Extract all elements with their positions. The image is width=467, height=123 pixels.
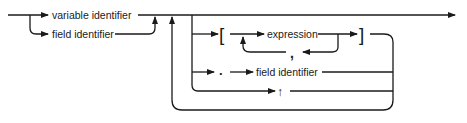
bracket-exit	[370, 34, 393, 100]
close-bracket: ]	[359, 24, 364, 45]
variable-identifier-label: variable identifier	[52, 9, 132, 21]
selector-branch	[192, 15, 232, 91]
comma-symbol: ,	[290, 45, 294, 61]
caret-symbol: ↑	[277, 85, 283, 99]
expression-label: expression	[267, 28, 318, 40]
dot-symbol: .	[219, 63, 223, 78]
field-identifier-label: field identifier	[52, 28, 114, 40]
railroad-diagram: variable identifier field identifier [ e…	[0, 0, 467, 123]
field-identifier-2-label: field identifier	[256, 66, 318, 78]
entry-path	[8, 15, 48, 34]
open-bracket: [	[219, 24, 225, 45]
